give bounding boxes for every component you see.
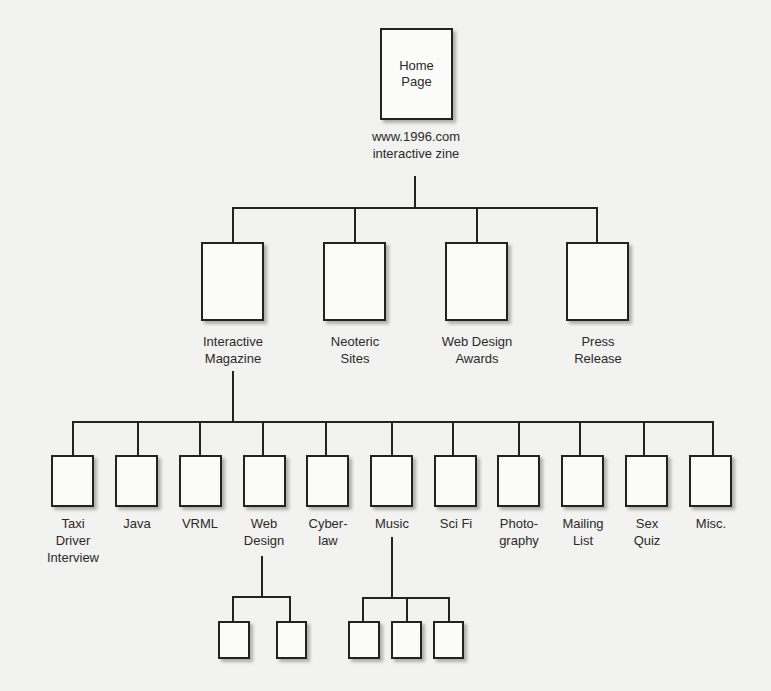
connector-l3-6 bbox=[391, 421, 393, 456]
java-box bbox=[115, 455, 158, 507]
connector-magazine-down bbox=[232, 371, 234, 422]
connector-webdesign-down bbox=[261, 556, 263, 598]
taxi-driver-interview-box bbox=[51, 455, 94, 507]
music-label: Music bbox=[375, 515, 409, 532]
home-page-box: Home Page bbox=[380, 28, 453, 120]
connector-l3-3 bbox=[199, 421, 201, 456]
web-design-child-box-2 bbox=[276, 621, 307, 659]
home-page-label: Home Page bbox=[382, 58, 451, 90]
mailing-list-box bbox=[561, 455, 604, 507]
neoteric-sites-label: Neoteric Sites bbox=[331, 333, 379, 367]
java-label: Java bbox=[123, 515, 150, 532]
connector-l2-2 bbox=[354, 207, 356, 243]
connector-webdesign-bus bbox=[232, 596, 291, 598]
connector-webdesign-child-2 bbox=[289, 596, 291, 622]
connector-l3-8 bbox=[518, 421, 520, 456]
connector-music-child-2 bbox=[406, 597, 408, 622]
root-caption: www.1996.com interactive zine bbox=[372, 128, 460, 162]
connector-root-down bbox=[414, 176, 416, 208]
connector-l2-3 bbox=[476, 207, 478, 243]
cyberlaw-label: Cyber- law bbox=[308, 515, 347, 549]
connector-l3-1 bbox=[72, 421, 74, 456]
connector-music-down bbox=[391, 537, 393, 598]
connector-l3-5 bbox=[325, 421, 327, 456]
connector-l3-11 bbox=[712, 421, 714, 456]
misc-label: Misc. bbox=[696, 515, 726, 532]
press-release-label: Press Release bbox=[574, 333, 622, 367]
neoteric-sites-box bbox=[323, 242, 386, 321]
connector-level2-bus bbox=[233, 207, 598, 209]
press-release-box bbox=[566, 242, 629, 321]
web-design-label: Web Design bbox=[244, 515, 284, 549]
interactive-magazine-box bbox=[201, 242, 264, 321]
web-design-box bbox=[243, 455, 286, 507]
connector-webdesign-child-1 bbox=[232, 596, 234, 622]
connector-l2-4 bbox=[596, 207, 598, 243]
connector-l3-10 bbox=[643, 421, 645, 456]
music-child-box-1 bbox=[348, 621, 380, 659]
web-design-child-box-1 bbox=[218, 621, 250, 659]
connector-music-child-3 bbox=[448, 597, 450, 622]
sex-quiz-label: Sex Quiz bbox=[634, 515, 661, 549]
sci-fi-label: Sci Fi bbox=[440, 515, 473, 532]
web-design-awards-box bbox=[445, 242, 508, 321]
web-design-awards-label: Web Design Awards bbox=[442, 333, 513, 367]
photography-label: Photo- graphy bbox=[499, 515, 539, 549]
connector-level3-bus bbox=[72, 421, 714, 423]
connector-l3-7 bbox=[452, 421, 454, 456]
connector-l2-1 bbox=[232, 207, 234, 243]
connector-l3-4 bbox=[262, 421, 264, 456]
connector-l3-2 bbox=[137, 421, 139, 456]
site-map-diagram: Home Page www.1996.com interactive zine … bbox=[0, 0, 771, 691]
mailing-list-label: Mailing List bbox=[562, 515, 603, 549]
sci-fi-box bbox=[434, 455, 477, 507]
sex-quiz-box bbox=[625, 455, 668, 507]
music-child-box-3 bbox=[433, 621, 464, 659]
taxi-driver-interview-label: Taxi Driver Interview bbox=[47, 515, 99, 566]
music-child-box-2 bbox=[391, 621, 422, 659]
cyberlaw-box bbox=[306, 455, 349, 507]
vrml-label: VRML bbox=[182, 515, 218, 532]
interactive-magazine-label: Interactive Magazine bbox=[203, 333, 263, 367]
music-box bbox=[370, 455, 413, 507]
connector-music-child-1 bbox=[362, 597, 364, 622]
vrml-box bbox=[179, 455, 222, 507]
connector-l3-9 bbox=[579, 421, 581, 456]
photography-box bbox=[497, 455, 540, 507]
misc-box bbox=[689, 455, 732, 507]
